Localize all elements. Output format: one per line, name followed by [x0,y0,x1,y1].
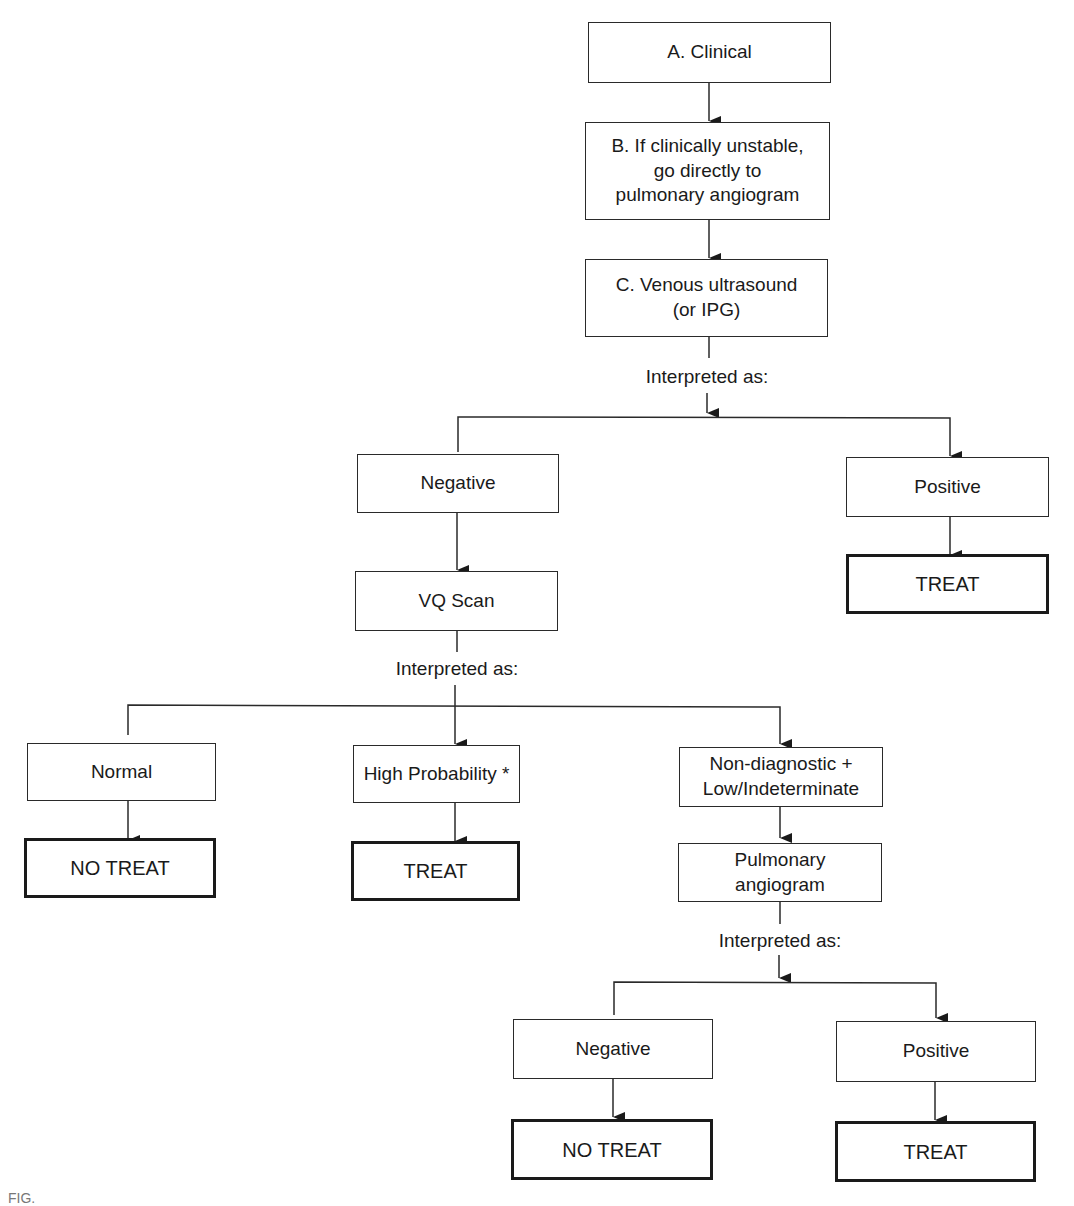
node-vq-normal: Normal [27,743,216,801]
node-ultrasound-negative: Negative [357,454,559,513]
node-vq-high-probability-treat: TREAT [351,841,520,901]
node-angiogram-positive-treat: TREAT [835,1121,1036,1182]
node-clinical: A. Clinical [588,22,831,83]
node-venous-ultrasound: C. Venous ultrasound (or IPG) [585,259,828,337]
label-interpreted-as-angiogram: Interpreted as: [719,930,842,952]
node-ultrasound-positive: Positive [846,457,1049,517]
node-clinically-unstable: B. If clinically unstable, go directly t… [585,122,830,220]
node-vq-scan: VQ Scan [355,571,558,631]
label-interpreted-as-vq: Interpreted as: [396,658,519,680]
node-vq-high-probability: High Probability * [353,745,520,803]
node-pulmonary-angiogram: Pulmonary angiogram [678,843,882,902]
node-vq-normal-no-treat: NO TREAT [24,838,216,898]
node-angiogram-positive: Positive [836,1021,1036,1082]
figure-caption: FIG. [8,1190,35,1206]
node-angiogram-negative-no-treat: NO TREAT [511,1119,713,1180]
node-angiogram-negative: Negative [513,1019,713,1079]
label-interpreted-as-ultrasound: Interpreted as: [646,366,769,388]
node-ultrasound-positive-treat: TREAT [846,554,1049,614]
node-vq-nondiagnostic: Non-diagnostic + Low/Indeterminate [679,747,883,807]
